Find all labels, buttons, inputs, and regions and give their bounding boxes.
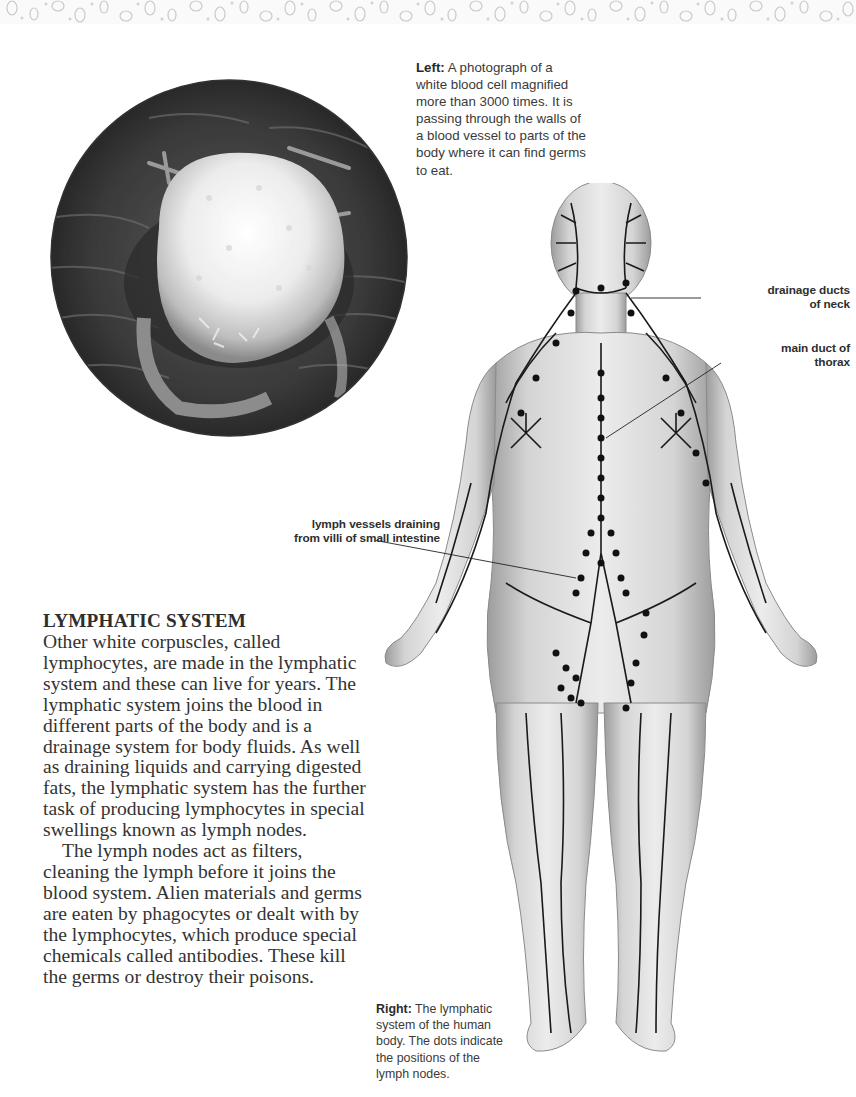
section-heading: LYMPHATIC SYSTEM <box>43 610 373 632</box>
paragraph: Other white corpuscles, called lymphocyt… <box>43 632 373 841</box>
photo-caption: Left: A photograph of a white blood cell… <box>416 59 586 179</box>
diagram-caption: Right: The lymphatic system of the human… <box>376 1001 508 1082</box>
caption-lead: Left: <box>416 60 445 75</box>
white-blood-cell-micrograph-icon <box>49 78 409 438</box>
human-body-lymph-icon <box>376 183 824 1063</box>
label-line: lymph vessels draining <box>180 517 440 531</box>
label-line: of neck <box>700 297 850 311</box>
lymphatic-system-diagram <box>376 183 824 1063</box>
article-body: LYMPHATIC SYSTEM Other white corpuscles,… <box>43 610 373 987</box>
label-line: drainage ducts <box>700 283 850 297</box>
label-line: main duct of <box>700 341 850 355</box>
caption-text: A photograph of a white blood cell magni… <box>416 60 586 178</box>
white-blood-cell-photo <box>49 78 409 438</box>
label-drainage-ducts-of-neck: drainage ducts of neck <box>700 283 850 311</box>
label-line: thorax <box>700 355 850 369</box>
decorative-cell-pattern-band <box>0 0 856 24</box>
label-main-duct-of-thorax: main duct of thorax <box>700 341 850 369</box>
caption-lead: Right: <box>376 1002 412 1016</box>
cell-pattern-icon <box>0 0 856 24</box>
label-lymph-vessels-villi: lymph vessels draining from villi of sma… <box>180 517 440 545</box>
paragraph: The lymph nodes act as filters, cleaning… <box>43 841 373 987</box>
label-line: from villi of small intestine <box>180 531 440 545</box>
